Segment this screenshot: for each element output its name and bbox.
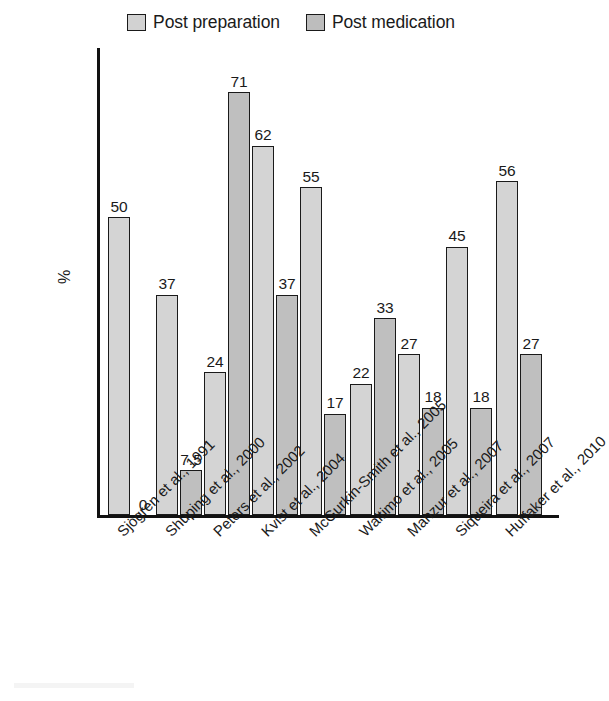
x-axis-label-3: Peters et al., 2002: [210, 442, 307, 539]
x-axis-label-4: Kvist et al., 2004: [258, 450, 347, 539]
page-scan-artifact: [14, 683, 134, 688]
x-axis-label-9: Huffaker et al., 2010: [502, 433, 608, 539]
